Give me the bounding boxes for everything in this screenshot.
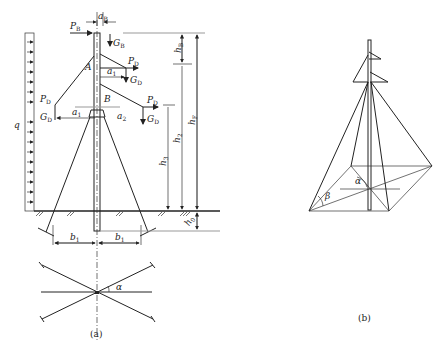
guy-wire-right [104,117,148,232]
label-hF: hF [187,115,198,125]
label-b1-left: b1 [70,232,80,243]
label-PD-right: PD [146,95,158,106]
label-PD-top: PD [127,56,139,67]
label-h2: h2 [172,133,183,143]
label-GB: GB [113,38,125,49]
guyed-pole-diagram: q aB PB GB PD GD [0,0,445,350]
label-B: B [103,94,111,104]
label-alpha-b: α [355,176,361,186]
label-beta: β [324,191,330,201]
label-GD-top: GD [130,75,142,86]
mast [368,40,371,210]
label-a-left: a1 [72,107,81,118]
label-h0: h0 [182,214,196,228]
right-flag [370,72,388,82]
label-GD-right: GD [147,114,159,125]
label-alpha-a: α [116,282,122,292]
label-aB: aB [98,11,108,22]
guy-line-2 [351,82,368,166]
label-A: A [84,62,92,72]
label-b1-right: b1 [115,232,125,243]
left-flag [353,55,368,82]
wind-load-strip: q [14,33,34,211]
guy-line-3 [371,82,389,211]
ground-hatch [36,212,190,216]
figure-b: α β (b) [309,40,432,323]
wind-arrows [27,42,33,202]
label-GD-left: GD [40,112,52,123]
caption-a: (a) [90,329,102,339]
label-hB: hB [173,42,184,53]
figure-a: q aB PB GB PD GD [14,11,220,340]
label-a-right: a2 [117,111,126,122]
guy-line-1 [309,82,368,211]
label-PB: PB [69,21,81,32]
guy-line-4 [371,82,432,166]
label-h3: h3 [158,156,169,166]
label-q: q [14,120,20,130]
caption-b: (b) [358,313,371,323]
upper-crossarm [100,54,126,68]
label-PD-left: PD [39,94,51,105]
